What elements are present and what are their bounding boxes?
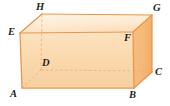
- vertex-label-D: D: [42, 58, 50, 69]
- prism-faces: [20, 14, 152, 88]
- vertex-label-F: F: [124, 33, 131, 44]
- prism-drawing: [0, 0, 170, 106]
- vertex-label-B: B: [129, 90, 136, 101]
- vertex-label-A: A: [10, 89, 17, 100]
- vertex-label-C: C: [155, 67, 162, 78]
- vertex-label-H: H: [36, 2, 44, 13]
- front-face-ABFE: [20, 32, 134, 88]
- top-face-EFGH: [20, 14, 152, 33]
- vertex-label-G: G: [153, 3, 161, 14]
- vertex-label-E: E: [8, 27, 15, 38]
- rectangular-prism-figure: A B C D E F G H: [0, 0, 170, 106]
